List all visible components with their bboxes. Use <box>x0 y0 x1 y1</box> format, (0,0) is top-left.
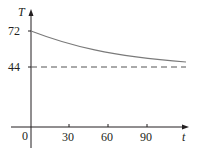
y-axis-arrow-icon <box>29 9 34 16</box>
y-tick-label-72: 72 <box>8 24 20 38</box>
y-axis-label: T <box>18 5 26 19</box>
temperature-curve <box>31 31 186 62</box>
x-tick-label-30: 30 <box>62 130 74 144</box>
origin-label: 0 <box>22 129 28 143</box>
x-tick-label-90: 90 <box>140 130 152 144</box>
x-tick-label-60: 60 <box>101 130 113 144</box>
y-tick-label-44: 44 <box>8 60 20 74</box>
chart: T 72 44 0 30 60 90 t <box>0 0 199 154</box>
x-axis-arrow-icon <box>182 125 189 130</box>
x-axis-label: t <box>182 130 186 144</box>
